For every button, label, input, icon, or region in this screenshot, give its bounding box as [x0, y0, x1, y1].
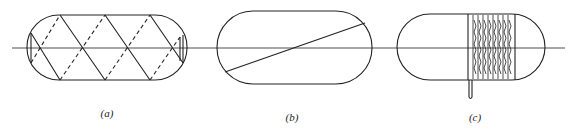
capsule-c — [397, 14, 545, 80]
figure: (a) (b) (c) — [0, 0, 575, 130]
capsule-a — [27, 15, 187, 80]
panel-a-label: (a) — [101, 107, 114, 119]
panel-b — [217, 11, 372, 84]
panel-c-label: (c) — [469, 111, 481, 123]
panel-b-label: (b) — [286, 111, 299, 123]
lead-wire — [469, 80, 472, 99]
panel-c — [397, 14, 545, 99]
coil-windings — [473, 15, 511, 79]
diagonal-line — [225, 23, 365, 72]
panel-a — [27, 15, 187, 80]
